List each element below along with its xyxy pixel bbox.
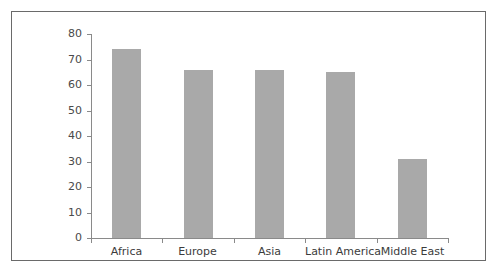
y-tick-label: 60 [30,79,82,90]
y-tick-label-text: 10 [38,207,82,218]
y-tick-label: 30 [30,156,82,167]
y-tick-label-text: 0 [38,232,82,243]
y-tick-mark [87,187,92,188]
y-tick-label-text: 40 [38,130,82,141]
x-axis-label: Europe [162,245,233,258]
x-tick-mark [162,238,163,243]
x-axis-label: Middle East [377,245,448,258]
y-tick-label-text: 80 [38,28,82,39]
bar [184,70,213,238]
y-tick-label: 70 [30,54,82,65]
y-tick-label: 20 [30,181,82,192]
y-tick-label-text: 60 [38,79,82,90]
y-tick-mark [87,34,92,35]
x-tick-mark [448,238,449,243]
y-tick-label: 80 [30,28,82,39]
x-axis-label: Asia [234,245,305,258]
x-tick-mark [234,238,235,243]
x-axis-label: Africa [91,245,162,258]
y-tick-label: 50 [30,105,82,116]
y-tick-mark [87,213,92,214]
y-tick-label: 0 [30,232,82,243]
y-tick-label: 40 [30,130,82,141]
y-tick-label: 10 [30,207,82,218]
x-axis-label: Latin America [305,245,376,258]
y-tick-mark [87,60,92,61]
y-tick-mark [87,136,92,137]
y-tick-mark [87,85,92,86]
bar [255,70,284,238]
y-tick-label-text: 70 [38,54,82,65]
x-axis-line [91,238,448,239]
y-tick-mark [87,162,92,163]
x-tick-mark [377,238,378,243]
bar [326,72,355,238]
bar-chart-plot-area: 01020304050607080 AfricaEuropeAsiaLatin … [12,12,487,262]
y-tick-label-text: 30 [38,156,82,167]
y-tick-label-text: 20 [38,181,82,192]
bar [398,159,427,238]
chart-frame: 01020304050607080 AfricaEuropeAsiaLatin … [11,11,486,261]
y-tick-label-text: 50 [38,105,82,116]
x-tick-mark [305,238,306,243]
bar [112,49,141,238]
y-tick-mark [87,111,92,112]
x-tick-mark [91,238,92,243]
